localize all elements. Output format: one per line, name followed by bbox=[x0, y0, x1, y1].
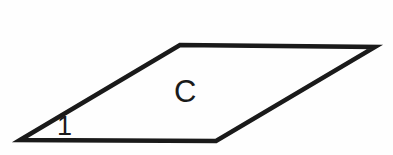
geometry-figure: C 1 bbox=[0, 0, 393, 155]
interior-label-c: C bbox=[174, 76, 196, 107]
angle-label-1: 1 bbox=[57, 113, 72, 140]
